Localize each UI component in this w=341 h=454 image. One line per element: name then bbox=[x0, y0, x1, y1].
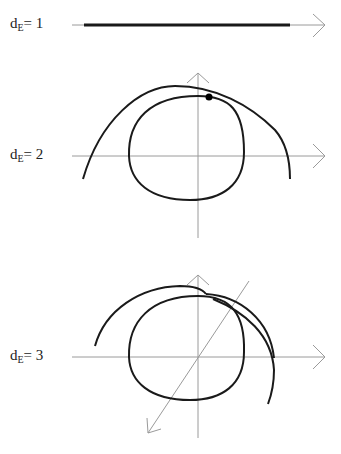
panel3-loop bbox=[129, 296, 244, 400]
panel3-axes bbox=[72, 275, 325, 438]
panel3-curves bbox=[95, 286, 274, 404]
panel2-outer-arc bbox=[83, 86, 290, 179]
panel3-spiral-outer bbox=[206, 294, 274, 358]
panel2-intersection-point bbox=[206, 94, 213, 101]
panel2-loop bbox=[129, 96, 244, 200]
panel3-spiral-upper bbox=[95, 286, 206, 346]
panel2-curves bbox=[83, 86, 290, 200]
diagram-canvas bbox=[0, 0, 341, 454]
